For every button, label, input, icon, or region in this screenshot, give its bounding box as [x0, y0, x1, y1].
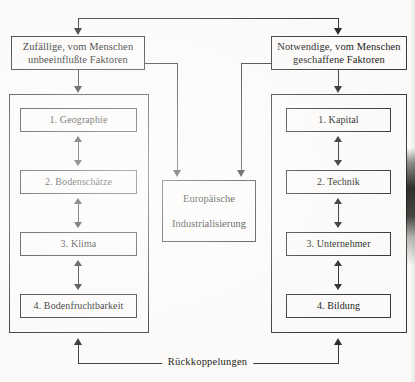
factor-label-kapital: 1. Kapital — [318, 114, 358, 127]
arrow-shaft — [338, 203, 339, 223]
arrow-feedback-into-left-column-icon — [74, 338, 82, 345]
factor-box-bildung: 4. Bildung — [286, 294, 391, 318]
arrow-into-header-left-icon — [74, 28, 82, 35]
arrowhead-down-icon — [74, 160, 82, 166]
feedback-bus-right-riser — [338, 345, 339, 364]
top-bus-horizontal-line — [78, 18, 338, 19]
header-left-line-1: Zufällige, vom Menschen — [23, 40, 133, 53]
factor-label-bildung: 4. Bildung — [317, 300, 360, 313]
factor-box-bodenschaetze: 2. Bodenschätze — [20, 170, 137, 194]
arrow-into-center-from-right-icon — [237, 170, 245, 177]
elbow-left-header-to-center-vertical — [177, 63, 178, 173]
elbow-right-header-to-center-horizontal — [241, 63, 272, 64]
scan-right-dark-artifact — [406, 148, 415, 266]
feedback-bus-left-riser — [78, 345, 79, 364]
factor-label-bodenfruchtbarkeit: 4. Bodenfruchtbarkeit — [34, 300, 124, 313]
arrow-shaft — [338, 141, 339, 161]
arrow-shaft — [78, 141, 79, 161]
arrow-header-right-to-column-icon — [334, 86, 342, 93]
factor-label-geographie: 1. Geographie — [50, 114, 108, 127]
arrowhead-down-icon — [74, 222, 82, 228]
factor-label-klima: 3. Klima — [61, 238, 97, 251]
arrowhead-down-icon — [334, 222, 342, 228]
header-box-random-factors: Zufällige, vom Menschen unbeeinflußte Fa… — [11, 36, 145, 70]
feedback-label: Rückkoppelungen — [162, 356, 253, 367]
header-box-necessary-factors: Notwendige, vom Menschen geschaffene Fak… — [271, 36, 407, 70]
link-bodenschaetze-klima — [74, 198, 83, 228]
arrow-shaft — [78, 265, 79, 285]
header-right-line-2: geschaffene Faktoren — [277, 53, 400, 66]
arrow-into-header-right-icon — [334, 28, 342, 35]
factor-box-unternehmer: 3. Unternehmer — [286, 232, 391, 256]
arrowhead-down-icon — [334, 284, 342, 290]
arrow-shaft — [338, 265, 339, 285]
link-kapital-technik — [334, 136, 343, 166]
factor-label-technik: 2. Technik — [317, 176, 360, 189]
header-left-line-2: unbeeinflußte Faktoren — [23, 53, 133, 66]
link-unternehmer-bildung — [334, 260, 343, 290]
diagram-canvas: Zufällige, vom Menschen unbeeinflußte Fa… — [0, 0, 415, 382]
center-line-1: Europäische — [183, 192, 235, 205]
header-right-line-1: Notwendige, vom Menschen — [277, 40, 400, 53]
factor-label-bodenschaetze: 2. Bodenschätze — [45, 176, 112, 189]
arrow-header-left-to-column-icon — [74, 86, 82, 93]
arrow-into-center-from-left-icon — [173, 170, 181, 177]
arrowhead-down-icon — [74, 284, 82, 290]
factor-box-technik: 2. Technik — [286, 170, 391, 194]
link-klima-bodenfruchtbarkeit — [74, 260, 83, 290]
elbow-left-header-to-center-horizontal — [145, 63, 178, 64]
arrow-feedback-into-right-column-icon — [334, 338, 342, 345]
arrow-shaft — [78, 203, 79, 223]
factor-box-klima: 3. Klima — [20, 232, 137, 256]
elbow-right-header-to-center-vertical — [241, 63, 242, 173]
factor-label-unternehmer: 3. Unternehmer — [306, 238, 370, 251]
factor-box-kapital: 1. Kapital — [286, 108, 391, 132]
center-box-european-industrialisation: Europäische Industrialisierung — [162, 180, 256, 242]
factor-box-geographie: 1. Geographie — [20, 108, 137, 132]
center-line-2: Industrialisierung — [172, 217, 246, 230]
link-geographie-bodenschaetze — [74, 136, 83, 166]
factor-box-bodenfruchtbarkeit: 4. Bodenfruchtbarkeit — [20, 294, 137, 318]
arrowhead-down-icon — [334, 160, 342, 166]
link-technik-unternehmer — [334, 198, 343, 228]
scan-right-soft-edge — [410, 0, 415, 382]
